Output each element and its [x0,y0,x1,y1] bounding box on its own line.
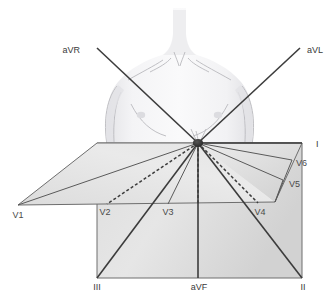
neck-shape [163,10,196,55]
label-V4: V4 [254,207,265,217]
ecg-diagram-canvas: aVR aVL I II aVF III V1 V2 V3 V4 V5 V6 [0,0,331,302]
label-V6: V6 [296,158,307,168]
nipple-left [137,112,145,118]
origin-marker [193,139,203,147]
nipple-right [214,112,222,118]
label-aVF: aVF [191,282,208,292]
label-II: II [300,282,305,292]
heart-origin-node [193,139,203,147]
ecg-lead-diagram: aVR aVL I II aVF III V1 V2 V3 V4 V5 V6 [0,0,331,302]
label-III: III [93,282,101,292]
horizontal-plane [18,143,302,205]
label-V5: V5 [289,179,300,189]
label-V3: V3 [162,207,173,217]
label-I: I [316,139,319,149]
torso-illustration [105,8,253,150]
label-aVL: aVL [307,45,323,55]
label-V1: V1 [12,210,23,220]
label-aVR: aVR [62,45,80,55]
label-V2: V2 [99,207,110,217]
